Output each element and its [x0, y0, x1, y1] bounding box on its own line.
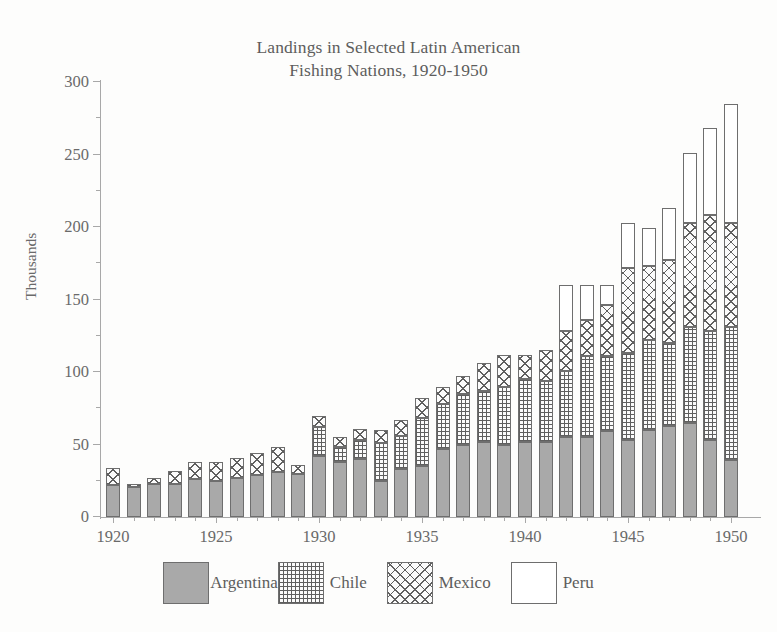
bar-segment-argentina-1930	[312, 456, 326, 517]
chart-title: Landings in Selected Latin American Fish…	[0, 36, 777, 82]
y-tick-major	[93, 81, 100, 82]
bar-segment-chile-1933	[374, 443, 388, 481]
legend-item-peru[interactable]: Peru	[511, 562, 614, 604]
bar-segment-mexico-1933	[374, 430, 388, 443]
bar-segment-argentina-1922	[147, 484, 161, 517]
x-tick-minor	[546, 517, 547, 521]
bar-segment-mexico-1923	[168, 471, 182, 484]
bar-segment-mexico-1927	[250, 453, 264, 475]
bar-segment-mexico-1920	[106, 468, 120, 485]
legend-swatch-mexico	[387, 562, 433, 604]
legend-item-chile[interactable]: Chile	[278, 562, 387, 604]
y-tick-minor	[96, 480, 100, 481]
y-tick-major	[93, 154, 100, 155]
bar-1939	[497, 355, 511, 517]
y-tick-minor	[96, 117, 100, 118]
y-tick-label: 100	[64, 362, 89, 382]
bar-segment-mexico-1939	[497, 355, 511, 387]
x-tick-major	[319, 517, 320, 523]
bar-1920	[106, 468, 120, 517]
y-tick-major	[93, 226, 100, 227]
x-axis-line	[100, 517, 761, 518]
bar-segment-argentina-1938	[477, 442, 491, 517]
bar-segment-argentina-1936	[436, 449, 450, 517]
x-tick-label: 1945	[612, 527, 645, 547]
bar-1947	[662, 208, 676, 517]
x-tick-label: 1935	[406, 527, 439, 547]
bar-1921	[127, 484, 141, 517]
bar-segment-argentina-1949	[703, 440, 717, 517]
x-tick-minor	[340, 517, 341, 521]
bar-1942	[559, 285, 573, 517]
x-tick-major	[731, 517, 732, 523]
x-tick-minor	[463, 517, 464, 521]
bar-segment-mexico-1942	[559, 331, 573, 370]
bar-1922	[147, 478, 161, 517]
x-tick-label: 1940	[509, 527, 542, 547]
bar-segment-argentina-1943	[580, 437, 594, 517]
bar-segment-mexico-1930	[312, 416, 326, 428]
bar-1941	[539, 350, 553, 517]
bar-1938	[477, 363, 491, 517]
bar-1944	[600, 285, 614, 517]
bar-segment-mexico-1936	[436, 387, 450, 404]
bar-segment-chile-1946	[642, 340, 656, 430]
x-tick-minor	[710, 517, 711, 521]
bar-segment-chile-1947	[662, 343, 676, 426]
bar-segment-chile-1944	[600, 356, 614, 431]
bar-1932	[353, 429, 367, 517]
bar-segment-argentina-1933	[374, 481, 388, 517]
bar-segment-argentina-1920	[106, 485, 120, 517]
x-tick-label: 1930	[303, 527, 336, 547]
x-tick-minor	[607, 517, 608, 521]
bar-segment-chile-1949	[703, 331, 717, 440]
bar-segment-argentina-1923	[168, 484, 182, 517]
bar-segment-argentina-1941	[539, 442, 553, 517]
bar-segment-argentina-1924	[188, 479, 202, 517]
bar-segment-argentina-1950	[724, 460, 738, 517]
bar-segment-argentina-1945	[621, 440, 635, 517]
x-tick-major	[525, 517, 526, 523]
y-axis-title: Thousands	[22, 233, 40, 300]
x-tick-minor	[298, 517, 299, 521]
bar-segment-chile-1941	[539, 381, 553, 442]
bar-segment-chile-1932	[353, 440, 367, 459]
bar-segment-chile-1935	[415, 418, 429, 466]
x-tick-label: 1920	[97, 527, 130, 547]
x-tick-minor	[484, 517, 485, 521]
legend-label-argentina: Argentina	[210, 573, 278, 593]
bar-segment-mexico-1925	[209, 462, 223, 481]
bar-segment-mexico-1941	[539, 350, 553, 380]
legend-label-mexico: Mexico	[439, 573, 491, 593]
y-tick-major	[93, 371, 100, 372]
bar-1949	[703, 128, 717, 517]
x-tick-minor	[669, 517, 670, 521]
bar-segment-mexico-1938	[477, 363, 491, 391]
bar-segment-argentina-1937	[456, 445, 470, 518]
bar-segment-argentina-1929	[291, 474, 305, 518]
y-tick-major	[93, 516, 100, 517]
bar-segment-peru-1949	[703, 128, 717, 215]
bar-segment-peru-1950	[724, 104, 738, 223]
legend-swatch-argentina	[163, 562, 209, 604]
bar-segment-argentina-1931	[333, 462, 347, 517]
y-tick-label: 200	[64, 217, 89, 237]
legend-item-mexico[interactable]: Mexico	[387, 562, 511, 604]
bar-1945	[621, 223, 635, 517]
bar-segment-chile-1931	[333, 447, 347, 462]
bar-1925	[209, 462, 223, 517]
bar-segment-mexico-1935	[415, 398, 429, 418]
bar-1935	[415, 398, 429, 517]
bar-segment-mexico-1921	[127, 484, 141, 487]
bar-segment-mexico-1949	[703, 215, 717, 331]
legend-label-chile: Chile	[330, 573, 367, 593]
legend-item-argentina[interactable]: Argentina	[163, 562, 278, 604]
bar-1940	[518, 355, 532, 517]
bar-segment-chile-1939	[497, 387, 511, 445]
bar-segment-mexico-1929	[291, 465, 305, 474]
bar-1924	[188, 462, 202, 517]
x-tick-minor	[649, 517, 650, 521]
bar-segment-mexico-1931	[333, 437, 347, 447]
bar-1936	[436, 387, 450, 518]
x-tick-minor	[237, 517, 238, 521]
